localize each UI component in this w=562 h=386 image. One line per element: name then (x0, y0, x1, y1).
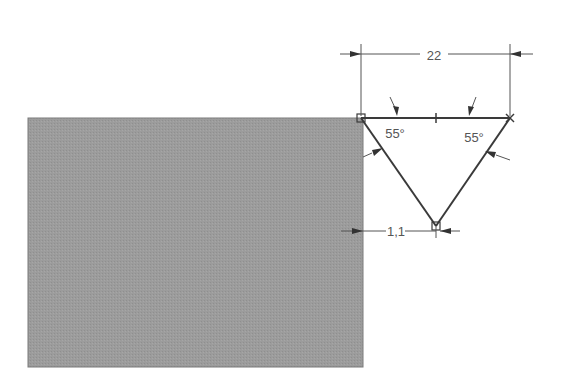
solid-block (28, 118, 363, 367)
angle-right-label[interactable]: 55° (464, 130, 484, 145)
triangle-profile[interactable] (361, 118, 510, 226)
angle-left-label[interactable]: 55° (385, 126, 405, 141)
cad-sketch-canvas: 22 55° 55° 1,1 (0, 0, 562, 386)
dimension-offset-label[interactable]: 1,1 (387, 224, 405, 239)
dimension-top-width-label[interactable]: 22 (427, 48, 441, 63)
